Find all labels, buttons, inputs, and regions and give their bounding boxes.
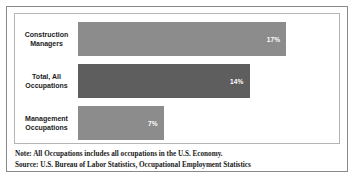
footnote-source: Source: U.S. Bureau of Labor Statistics,…: [15, 160, 335, 171]
bar-row: Management Occupations 7%: [15, 106, 339, 140]
category-label-line1: Management: [25, 114, 68, 123]
category-label-management-occupations: Management Occupations: [15, 106, 78, 140]
category-label-construction-managers: Construction Managers: [15, 22, 78, 56]
chart-title-cropped: [51, 7, 251, 12]
category-label-line2: Managers: [30, 39, 63, 48]
footnote-note: Note: All Occupations includes all occup…: [15, 149, 335, 160]
bar-row: Total, All Occupations 14%: [15, 64, 339, 98]
bar-row: Construction Managers 17%: [15, 22, 339, 56]
bar-construction-managers[interactable]: 17%: [78, 22, 286, 56]
category-label-line2: Occupations: [25, 123, 67, 132]
bar-value-label: 17%: [267, 36, 281, 43]
bar-value-label: 14%: [230, 78, 244, 85]
bar-total-all-occupations[interactable]: 14%: [78, 64, 250, 98]
category-label-line2: Occupations: [25, 81, 67, 90]
plot-area: Construction Managers 17% Total, All Occ…: [14, 13, 340, 144]
category-label-total-all-occupations: Total, All Occupations: [15, 64, 78, 98]
footnotes: Note: All Occupations includes all occup…: [15, 149, 335, 170]
category-label-line1: Total, All: [32, 72, 61, 81]
chart-figure: Construction Managers 17% Total, All Occ…: [6, 6, 348, 172]
bar-management-occupations[interactable]: 7%: [78, 106, 164, 140]
bar-value-label: 7%: [148, 120, 158, 127]
category-label-line1: Construction: [25, 30, 69, 39]
